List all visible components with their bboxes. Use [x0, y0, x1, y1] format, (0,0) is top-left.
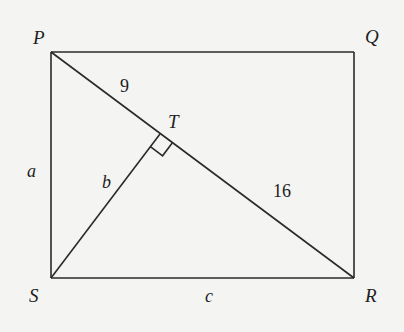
side-label-a: a — [27, 161, 36, 181]
side-label-b: b — [102, 172, 111, 192]
vertex-label-q: Q — [365, 26, 379, 47]
rectangle-diagram: P Q R S T a b c 9 16 — [0, 0, 404, 332]
segment-st — [51, 134, 160, 278]
length-label-tr: 16 — [273, 181, 291, 201]
vertex-label-t: T — [168, 111, 180, 132]
diagonal-pr — [51, 52, 354, 278]
vertex-label-r: R — [364, 285, 377, 306]
right-angle-marker — [150, 143, 172, 156]
vertex-label-s: S — [29, 285, 39, 306]
vertex-label-p: P — [32, 27, 45, 48]
length-label-pt: 9 — [120, 76, 129, 96]
side-label-c: c — [205, 286, 213, 306]
